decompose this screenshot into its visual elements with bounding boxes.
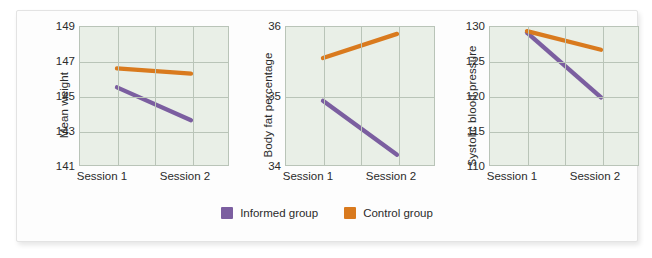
gridline-horizontal <box>80 132 228 133</box>
series-lines <box>80 27 228 165</box>
gridline-vertical <box>155 27 156 165</box>
legend-label-control-group: Control group <box>363 207 433 219</box>
gridline-vertical <box>399 27 400 165</box>
legend-swatch-informed-group <box>221 207 233 219</box>
chart-legend: Informed group Control group <box>17 203 637 223</box>
plot-area <box>285 26 435 166</box>
y-axis-tick-label: 125 <box>459 56 485 66</box>
x-axis-tick-session-2: Session 2 <box>555 170 635 182</box>
x-axis-tick-session-2: Session 2 <box>351 170 431 182</box>
legend-label-informed-group: Informed group <box>240 207 318 219</box>
gridline-vertical <box>361 27 362 165</box>
y-axis-tick-label: 143 <box>49 126 75 136</box>
gridline-horizontal <box>80 62 228 63</box>
series-line-informed-group <box>323 101 397 155</box>
x-axis-tick-session-1: Session 1 <box>62 170 142 182</box>
series-lines <box>490 27 638 165</box>
plot-area <box>489 26 639 166</box>
legend-item-control-group: Control group <box>344 207 433 219</box>
y-axis-tick-label: 130 <box>459 21 485 31</box>
x-axis-tick-session-1: Session 1 <box>268 170 348 182</box>
series-lines <box>286 27 434 165</box>
series-line-informed-group <box>117 87 191 120</box>
x-axis-tick-session-1: Session 1 <box>472 170 552 182</box>
legend-swatch-control-group <box>344 207 356 219</box>
y-axis-tick-label: 115 <box>459 126 485 136</box>
chart-panel-body-fat-percentage: Body fat percentage 343536 Session 1 Ses… <box>245 17 451 197</box>
gridline-vertical <box>565 27 566 165</box>
gridline-vertical <box>118 27 119 165</box>
x-axis-tick-session-2: Session 2 <box>145 170 225 182</box>
y-axis-tick-label: 145 <box>49 91 75 101</box>
gridline-horizontal <box>490 97 638 98</box>
y-axis-tick-label: 147 <box>49 56 75 66</box>
plot-area <box>79 26 229 166</box>
chart-panel-systolic-blood-pressure: Systolic blood pressure 110115120125130 … <box>449 17 652 197</box>
y-axis-tick-label: 35 <box>255 91 281 101</box>
gridline-horizontal <box>80 97 228 98</box>
chart-panel-group: Mean weight 141143145147149 Session 1 Se… <box>17 11 637 196</box>
gridline-vertical <box>324 27 325 165</box>
gridline-vertical <box>528 27 529 165</box>
series-line-control-group <box>323 34 397 58</box>
figure-card: Mean weight 141143145147149 Session 1 Se… <box>16 10 638 242</box>
legend-item-informed-group: Informed group <box>221 207 318 219</box>
chart-panel-mean-weight: Mean weight 141143145147149 Session 1 Se… <box>39 17 245 197</box>
gridline-horizontal <box>286 97 434 98</box>
gridline-vertical <box>193 27 194 165</box>
y-axis-tick-label: 36 <box>255 21 281 31</box>
gridline-vertical <box>603 27 604 165</box>
series-line-control-group <box>117 68 191 73</box>
gridline-horizontal <box>490 132 638 133</box>
y-axis-tick-label: 149 <box>49 21 75 31</box>
gridline-horizontal <box>490 62 638 63</box>
y-axis-tick-label: 120 <box>459 91 485 101</box>
